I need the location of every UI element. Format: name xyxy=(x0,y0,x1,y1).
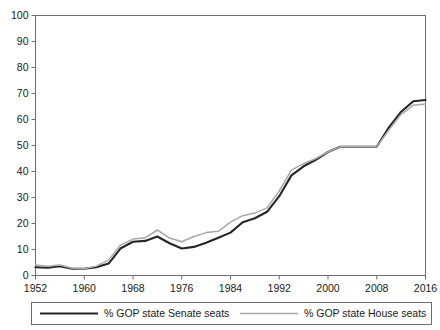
x-tick-label: 1976 xyxy=(170,282,194,294)
data-series-group xyxy=(36,100,426,269)
y-tick-label: 40 xyxy=(17,165,29,177)
y-tick-label: 60 xyxy=(17,113,29,125)
legend-label-senate: % GOP state Senate seats xyxy=(104,307,229,319)
y-tick-label: 30 xyxy=(17,191,29,203)
x-tick-label: 1992 xyxy=(268,282,292,294)
x-tick-label: 1960 xyxy=(73,282,97,294)
y-tick-label: 100 xyxy=(11,9,29,21)
y-axis-ticks xyxy=(32,16,36,276)
x-tick-label: 1952 xyxy=(24,282,48,294)
y-tick-label: 10 xyxy=(17,243,29,255)
x-tick-label: 1984 xyxy=(219,282,243,294)
x-tick-label: 2000 xyxy=(316,282,340,294)
x-axis-tick-labels: 195219601968197619841992200020082016 xyxy=(24,282,438,294)
plot-frame xyxy=(36,16,426,276)
y-tick-label: 70 xyxy=(17,87,29,99)
chart-legend: % GOP state Senate seats% GOP state Hous… xyxy=(32,303,432,325)
y-tick-label: 50 xyxy=(17,139,29,151)
y-tick-label: 90 xyxy=(17,35,29,47)
y-axis-tick-labels: 0102030405060708090100 xyxy=(11,9,29,281)
legend-label-house: % GOP state House seats xyxy=(304,307,426,319)
x-tick-label: 1968 xyxy=(121,282,145,294)
x-tick-label: 2008 xyxy=(365,282,389,294)
x-tick-label: 2016 xyxy=(414,282,438,294)
series-line-house xyxy=(36,104,426,269)
x-axis-ticks xyxy=(36,276,426,280)
chart-container: 0102030405060708090100 19521960196819761… xyxy=(0,0,440,330)
y-tick-label: 20 xyxy=(17,217,29,229)
series-line-senate xyxy=(36,100,426,269)
line-chart: 0102030405060708090100 19521960196819761… xyxy=(0,0,440,330)
y-tick-label: 80 xyxy=(17,61,29,73)
y-tick-label: 0 xyxy=(23,269,29,281)
